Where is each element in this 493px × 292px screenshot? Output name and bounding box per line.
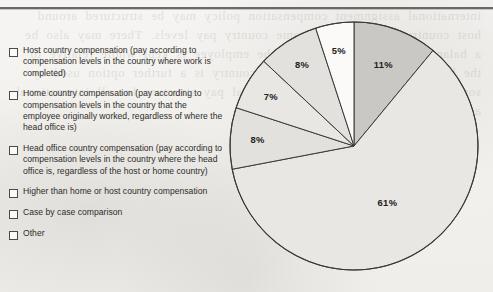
pie-chart-svg: 11%61%8%7%8%5% — [228, 20, 480, 272]
checkbox-empty-icon — [9, 146, 18, 155]
pie-slice-label-head-office-country-compensation: 8% — [250, 134, 265, 145]
legend-item-label: Host country compensation (pay according… — [23, 45, 223, 79]
legend-item-label: Other — [23, 228, 45, 239]
pie-slice-label-higher-than-home-or-host: 7% — [264, 91, 279, 102]
top-horizontal-rule-shadow — [0, 9, 493, 10]
pie-slice-label-host-country-compensation: 11% — [374, 59, 394, 70]
chart-legend: Host country compensation (pay according… — [9, 45, 223, 249]
legend-item-host-country[interactable]: Host country compensation (pay according… — [9, 45, 223, 79]
legend-item-other[interactable]: Other — [9, 228, 223, 240]
legend-item-label: Head office country compensation (pay ac… — [23, 143, 223, 177]
legend-item-head-office-country[interactable]: Head office country compensation (pay ac… — [9, 143, 223, 177]
figure-page: international assignment compensation po… — [0, 0, 493, 292]
pie-slice-label-case-by-case-comparison: 8% — [295, 59, 310, 70]
pie-slice-label-home-country-compensation: 61% — [378, 197, 398, 208]
legend-item-label: Case by case comparison — [23, 207, 122, 218]
checkbox-empty-icon — [9, 91, 18, 100]
legend-item-case-by-case[interactable]: Case by case comparison — [9, 207, 223, 219]
checkbox-empty-icon — [9, 189, 18, 198]
checkbox-empty-icon — [9, 210, 18, 219]
checkbox-empty-icon — [9, 48, 18, 57]
legend-item-label: Home country compensation (pay according… — [23, 88, 223, 134]
pie-slice-group — [230, 22, 478, 270]
legend-item-higher-than-home-or-host[interactable]: Higher than home or host country compens… — [9, 186, 223, 198]
pie-slice-label-other: 5% — [332, 45, 347, 56]
checkbox-empty-icon — [9, 231, 18, 240]
legend-item-home-country[interactable]: Home country compensation (pay according… — [9, 88, 223, 134]
legend-item-label: Higher than home or host country compens… — [23, 186, 207, 197]
pie-chart: 11%61%8%7%8%5% — [228, 20, 480, 272]
